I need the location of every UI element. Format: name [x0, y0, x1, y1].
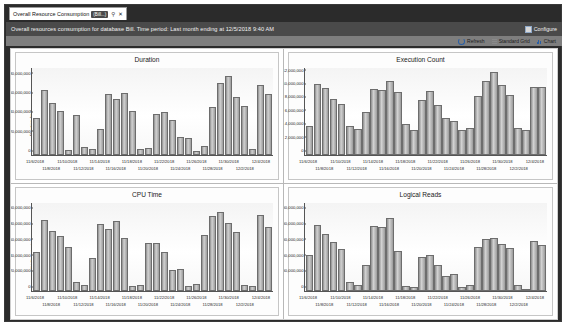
x-axis-tick: 11/10/2018 [330, 159, 350, 164]
bar [137, 149, 144, 155]
bar-series [33, 68, 272, 155]
bar [193, 284, 200, 291]
x-axis-tick: 11/16/2018 [106, 166, 126, 171]
bar [57, 111, 64, 155]
y-axis-tick: 12,000,000 [284, 67, 304, 72]
chart-toolbar: Refresh Standard Grid Chart [6, 36, 562, 46]
chart-button[interactable]: Chart [537, 38, 556, 44]
configure-button[interactable]: Configure [525, 26, 557, 33]
x-axis-tick: 11/16/2018 [379, 166, 399, 171]
y-axis-tick: 0 [28, 284, 30, 289]
refresh-icon [458, 38, 465, 45]
x-axis-tick: 11/30/2018 [492, 159, 512, 164]
bar [209, 107, 216, 155]
bar [41, 90, 48, 155]
y-axis-tick: 100,000,000 [11, 205, 31, 210]
x-axis-labels: 11/6/201811/10/201811/14/201811/18/20181… [304, 157, 547, 179]
x-axis-tick: 11/30/2018 [219, 159, 239, 164]
x-axis-tick: 11/18/2018 [395, 159, 415, 164]
x-axis-tick: 11/18/2018 [122, 295, 142, 300]
y-axis-tick: 80,000,000 [11, 70, 31, 75]
y-axis-tick: 0 [301, 148, 303, 153]
y-axis-tick: 20,000,000,000 [284, 268, 304, 273]
bar [265, 227, 272, 291]
x-axis-tick: 11/14/2018 [89, 295, 109, 300]
x-axis-tick: 11/18/2018 [395, 295, 415, 300]
bar [121, 93, 128, 155]
axis-area: 02,000,0004,000,0006,000,0008,000,00010,… [304, 68, 547, 179]
bar [105, 94, 112, 155]
close-icon[interactable]: ✕ [118, 11, 123, 17]
bar [442, 118, 449, 155]
x-axis-tick: 11/10/2018 [57, 159, 77, 164]
tab-overall-resource-consumption[interactable]: Overall Resource Consumption (Bill...) ⚲… [9, 7, 127, 20]
plot-area: 020,000,000,00040,000,000,00060,000,000,… [304, 203, 547, 292]
x-axis-tick: 11/22/2018 [154, 159, 174, 164]
bar [354, 129, 361, 155]
y-axis-tick: 20,000,000 [11, 128, 31, 133]
bar [362, 265, 369, 291]
chart-panel-cpu-time: CPU TimeCPU Time (ms)020,000,00040,000,0… [15, 187, 279, 316]
bar [314, 84, 321, 155]
bar [177, 137, 184, 155]
chart-title: Duration [16, 56, 278, 63]
x-axis-tick: 11/24/2018 [170, 166, 190, 171]
bar [129, 111, 136, 155]
chart-title: Logical Reads [289, 191, 552, 198]
bar [426, 91, 433, 155]
x-axis-tick: 11/10/2018 [330, 295, 350, 300]
x-axis-tick: 12/4/2018 [526, 159, 544, 164]
bar [514, 128, 521, 155]
bar [201, 235, 208, 291]
bar [394, 251, 401, 291]
bar [530, 241, 537, 291]
bar [466, 285, 473, 291]
bar [33, 118, 40, 155]
bar [538, 87, 545, 155]
bar [386, 81, 393, 155]
standard-grid-button[interactable]: Standard Grid [492, 38, 530, 44]
bar [145, 243, 152, 291]
pin-icon[interactable]: ⚲ [111, 11, 115, 17]
bar [434, 105, 441, 155]
x-axis-tick: 12/4/2018 [252, 295, 270, 300]
bar [249, 149, 256, 155]
chart-title: Execution Count [289, 56, 552, 63]
x-axis-tick: 11/20/2018 [138, 166, 158, 171]
y-axis-tick: 4,000,000 [285, 121, 304, 126]
bar [49, 103, 56, 155]
bar [466, 128, 473, 155]
x-axis-tick: 11/24/2018 [170, 302, 190, 307]
bar [153, 243, 160, 291]
y-axis-tick: 10,000,000 [284, 81, 304, 86]
bar-series [306, 203, 546, 291]
bar [225, 76, 232, 155]
bar [394, 92, 401, 155]
bar [450, 274, 457, 291]
bar [370, 226, 377, 291]
bar [257, 85, 264, 155]
x-axis-tick: 11/30/2018 [219, 295, 239, 300]
y-axis-tick: 40,000,000 [11, 109, 31, 114]
bar [322, 88, 329, 155]
header-band: Overall resources consumption for databa… [6, 22, 562, 36]
bar [354, 285, 361, 291]
x-axis-labels: 11/6/201811/10/201811/14/201811/18/20181… [31, 293, 273, 315]
bar [153, 114, 160, 155]
bar [346, 282, 353, 291]
x-axis-tick: 11/24/2018 [444, 166, 464, 171]
bar-series [33, 203, 272, 291]
configure-label: Configure [534, 26, 557, 32]
refresh-label: Refresh [467, 38, 485, 44]
x-axis-tick: 11/26/2018 [186, 159, 206, 164]
bar [169, 120, 176, 155]
bar [418, 100, 425, 155]
refresh-button[interactable]: Refresh [458, 38, 485, 45]
x-axis-tick: 11/12/2018 [347, 302, 367, 307]
x-axis-tick: 11/26/2018 [460, 295, 480, 300]
bar [161, 252, 168, 291]
chart-cell: Logical ReadsLogical Reads (KB)020,000,0… [284, 184, 557, 319]
y-axis-tick: 80,000,000,000 [284, 221, 304, 226]
x-axis-tick: 11/8/2018 [315, 166, 333, 171]
bar [506, 248, 513, 291]
